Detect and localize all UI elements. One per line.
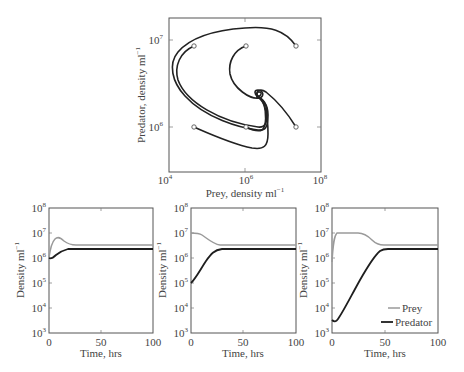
- y-tick-label: 107: [149, 33, 164, 46]
- predator-line: [191, 249, 296, 283]
- x-axis-label: Prey, density ml−1: [206, 186, 285, 199]
- panel-3-labels: 108 107 106 105 104 103 0 50 100 Time, h…: [296, 201, 447, 359]
- x-tick-label: 108: [313, 173, 328, 186]
- x-tick-label: 106: [239, 173, 254, 186]
- y-axis-label: Density ml−1: [296, 241, 309, 298]
- y-tick-label: 107: [32, 226, 47, 239]
- start-marker: [294, 125, 298, 129]
- y-tick-label: 105: [315, 276, 330, 289]
- time-series-panel-1: [49, 208, 153, 333]
- phase-trajectories: [172, 28, 296, 149]
- y-tick-label: 105: [174, 276, 189, 289]
- y-tick-label: 108: [32, 201, 47, 214]
- y-tick-label: 106: [32, 251, 47, 264]
- x-tick-label: 0: [46, 336, 52, 348]
- y-tick-label: 103: [315, 326, 330, 339]
- predator-line: [49, 249, 153, 258]
- x-tick-label: 0: [329, 336, 335, 348]
- y-tick-label: 107: [315, 226, 330, 239]
- prey-line: [191, 233, 296, 245]
- trajectory-1: [172, 28, 296, 131]
- figure: 104 106 108 107 106 Prey, density ml−1 P…: [0, 0, 464, 372]
- legend: Prey Predator: [381, 302, 433, 328]
- legend-predator-label: Predator: [395, 316, 433, 328]
- trajectory-2: [177, 46, 267, 127]
- x-tick-label: 100: [430, 336, 447, 348]
- start-markers: [192, 44, 298, 129]
- prey-line: [49, 238, 153, 258]
- x-tick-label: 104: [158, 173, 173, 186]
- start-marker: [244, 125, 248, 129]
- y-tick-label: 108: [174, 201, 189, 214]
- panel-frame: [191, 208, 296, 333]
- x-tick-label: 0: [188, 336, 194, 348]
- legend-prey-label: Prey: [402, 302, 423, 314]
- trajectory-4: [194, 97, 268, 148]
- start-marker: [192, 44, 196, 48]
- y-axis-label: Predator, density ml−1: [134, 47, 147, 143]
- time-series-panel-3: Prey Predator: [332, 208, 438, 333]
- x-axis-label: Time, hrs: [222, 347, 264, 359]
- panel-ticks: [332, 208, 385, 333]
- y-tick-label: 107: [174, 226, 189, 239]
- time-series-panel-2: [191, 208, 296, 333]
- y-tick-label: 106: [315, 251, 330, 264]
- start-marker: [192, 125, 196, 129]
- panel-frame: [49, 208, 153, 333]
- equilibrium-point: [256, 95, 260, 99]
- panel-1-labels: 108 107 106 105 104 103 0 50 100 Time, h…: [13, 201, 162, 359]
- y-axis-label: Density ml−1: [13, 241, 26, 298]
- y-tick-label: 104: [174, 301, 189, 314]
- y-tick-label: 104: [315, 301, 330, 314]
- x-tick-label: 100: [145, 336, 162, 348]
- x-tick-label: 100: [288, 336, 305, 348]
- panel-frame: [332, 208, 438, 333]
- y-tick-label: 106: [174, 251, 189, 264]
- y-tick-label: 104: [32, 301, 47, 314]
- y-tick-label: 103: [174, 326, 189, 339]
- x-axis-label: Time, hrs: [80, 347, 122, 359]
- panel-ticks: [49, 208, 101, 333]
- y-axis-label: Density ml−1: [155, 241, 168, 298]
- y-tick-label: 106: [149, 120, 164, 133]
- panel-ticks: [191, 208, 243, 333]
- y-tick-label: 108: [315, 201, 330, 214]
- y-tick-label: 105: [32, 276, 47, 289]
- y-tick-label: 103: [32, 326, 47, 339]
- panel-2-labels: 108 107 106 105 104 103 0 50 100 Time, h…: [155, 201, 305, 359]
- x-axis-label: Time, hrs: [364, 347, 406, 359]
- start-marker: [244, 44, 248, 48]
- phase-plot: 104 106 108 107 106 Prey, density ml−1 P…: [134, 18, 328, 199]
- prey-line: [332, 233, 438, 262]
- start-marker: [294, 44, 298, 48]
